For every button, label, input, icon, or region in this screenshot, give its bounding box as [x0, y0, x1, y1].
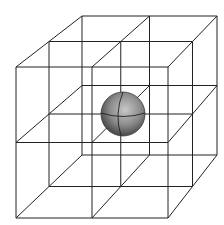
lattice-edge: [92, 42, 121, 68]
lattice-edge: [193, 16, 218, 42]
lattice-edge: [193, 155, 218, 187]
lattice-svg: [0, 0, 224, 225]
lattice-edge: [168, 187, 193, 219]
lattice-edge: [168, 42, 193, 68]
lattice-edge: [121, 155, 150, 187]
lattice-edge: [16, 42, 49, 68]
center-sphere: [101, 92, 145, 136]
lattice-diagram: [0, 0, 224, 225]
sphere-body: [101, 92, 145, 136]
lattice-edge: [49, 155, 82, 187]
lattice-edge: [121, 16, 150, 42]
lattice-edge: [49, 16, 82, 42]
lattice-edge: [16, 187, 49, 219]
lattice-edge: [168, 114, 193, 143]
lattice-edge: [16, 114, 49, 143]
lattice-edge: [193, 86, 218, 115]
lattice-edge: [49, 86, 82, 115]
lattice-edge: [92, 187, 121, 219]
